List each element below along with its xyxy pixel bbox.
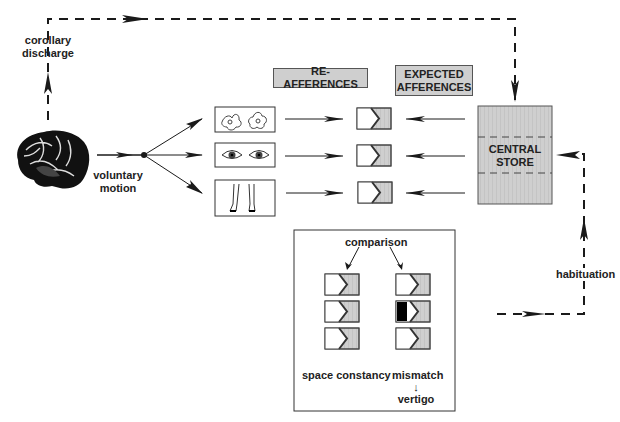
label-line: motion bbox=[92, 182, 144, 195]
comparator-1 bbox=[357, 108, 391, 129]
tag-text: RE-AFFERENCES bbox=[274, 65, 367, 91]
comparator-3 bbox=[358, 182, 392, 203]
somatosensory-box bbox=[215, 180, 275, 216]
arrowhead-icon bbox=[186, 118, 203, 130]
mismatch-block bbox=[397, 302, 407, 321]
voluntary-motion-label: voluntary motion bbox=[92, 169, 144, 195]
habituation-label: habituation bbox=[556, 268, 612, 281]
corollary-discharge-label: corollary discharge bbox=[20, 34, 76, 60]
arrowhead-right-icon bbox=[522, 311, 546, 317]
arrow-down-icon: ↓ bbox=[392, 382, 440, 393]
brain-icon bbox=[17, 130, 89, 188]
voluntary-motion-arrow bbox=[97, 152, 143, 158]
arrowhead-up-icon bbox=[44, 72, 52, 94]
label-line: corollary bbox=[20, 34, 76, 47]
label-line: voluntary bbox=[92, 169, 144, 182]
expected-afferences-tag: EXPECTED AFFERENCES bbox=[395, 65, 473, 96]
arrowhead-left-icon bbox=[556, 151, 580, 159]
space-constancy-comparators bbox=[325, 274, 359, 349]
vertigo-label: vertigo bbox=[392, 393, 440, 406]
tag-text: AFFERENCES bbox=[397, 81, 472, 94]
label-line: STORE bbox=[478, 156, 552, 169]
mismatch-comparators bbox=[396, 274, 430, 349]
mismatch-label: mismatch ↓ vertigo bbox=[392, 369, 440, 406]
comparison-label: comparison bbox=[345, 236, 405, 249]
diagram-canvas bbox=[0, 0, 620, 422]
visual-box bbox=[215, 143, 275, 167]
re-afferences-tag: RE-AFFERENCES bbox=[273, 68, 368, 88]
central-store-label: CENTRAL STORE bbox=[478, 143, 552, 169]
label-line: CENTRAL bbox=[478, 143, 552, 156]
vestibular-box bbox=[215, 107, 275, 132]
arrowhead-icon bbox=[186, 180, 203, 194]
tag-text: EXPECTED bbox=[404, 68, 463, 81]
comparator-2 bbox=[357, 145, 391, 166]
space-constancy-label: space constancy bbox=[302, 369, 386, 382]
label-line: discharge bbox=[20, 47, 76, 60]
